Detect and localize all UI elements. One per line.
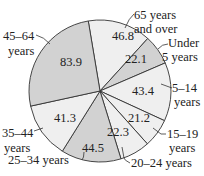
slice-value: 21.2 (128, 111, 150, 125)
slice-value: 41.3 (54, 111, 76, 125)
slice-value: 22.1 (125, 52, 147, 66)
label-20-24: 20–24 years (131, 156, 192, 170)
slice-value: 83.9 (60, 55, 82, 69)
pie-chart: 46.822.143.421.222.344.541.383.9 65 year… (0, 0, 204, 176)
slice-value: 46.8 (112, 29, 134, 43)
label-65-over: 65 yearsand over (134, 8, 178, 36)
label-35-44: 35–44years (2, 126, 34, 155)
label-15-19: 15–19years (167, 127, 198, 155)
label-under-5: Under5 years (162, 36, 200, 64)
label-45-64: 45–64years (3, 29, 35, 58)
slice-value: 44.5 (82, 141, 104, 155)
slice-value: 22.3 (107, 125, 129, 139)
slice-value: 43.4 (132, 84, 155, 98)
leader-under-5 (158, 44, 168, 49)
label-25-34: 25–34 years (8, 153, 69, 167)
label-5-14: 5–14years (172, 81, 201, 109)
